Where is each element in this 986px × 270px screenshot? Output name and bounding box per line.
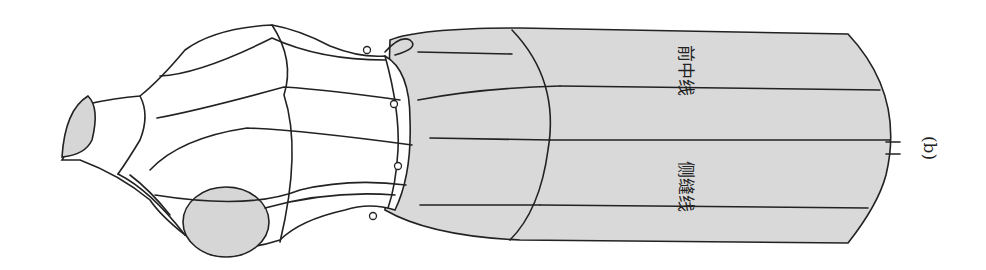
side-seam-line-label: 侧缝线 <box>676 161 696 212</box>
panel-label: (b) <box>920 136 940 160</box>
pin-icon <box>370 213 377 220</box>
pin-icon <box>395 163 402 170</box>
dress-form <box>62 25 412 257</box>
front-center-line-label: 前中线 <box>676 45 696 96</box>
pin-icon <box>364 47 371 54</box>
fabric-panel <box>385 28 900 243</box>
pin-icon <box>391 101 398 108</box>
draping-diagram: 前中线 侧缝线 (b) <box>0 0 986 270</box>
